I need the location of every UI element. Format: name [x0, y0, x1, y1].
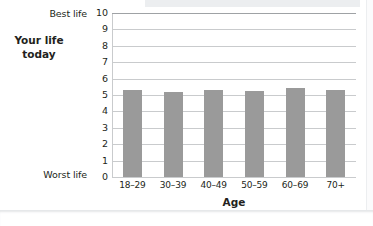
x-tick-label: 40–49 [191, 180, 237, 190]
bar [326, 90, 345, 177]
y-axis-min-caption: Worst life [43, 169, 87, 180]
y-axis-title: Your life today [2, 33, 76, 61]
bar [286, 88, 305, 177]
bar [204, 90, 223, 177]
page-edge-right [366, 0, 373, 213]
bar-series [112, 13, 356, 177]
y-tick-8: 8 [86, 40, 108, 51]
x-tick-label: 18–29 [109, 180, 155, 190]
gridline-0 [112, 177, 356, 178]
y-tick-0: 0 [86, 171, 108, 182]
x-tick-label: 50–59 [231, 180, 277, 190]
bar [245, 91, 264, 177]
page-edge-bottom [0, 210, 373, 226]
x-tick-label: 60–69 [272, 180, 318, 190]
y-axis-max-caption: Best life [49, 8, 87, 19]
x-tick-label: 70+ [313, 180, 359, 190]
y-tick-10: 10 [86, 7, 108, 18]
bar [123, 90, 142, 177]
x-axis-title: Age [112, 196, 356, 208]
bar [164, 92, 183, 177]
y-tick-9: 9 [86, 23, 108, 34]
y-axis-title-line1: Your life [2, 33, 76, 47]
page-scan-artifact-top [145, 0, 360, 7]
y-tick-2: 2 [86, 138, 108, 149]
chart-figure: Your life today Best life Worst life 012… [0, 0, 373, 226]
y-tick-7: 7 [86, 56, 108, 67]
y-tick-5: 5 [86, 89, 108, 100]
y-tick-3: 3 [86, 122, 108, 133]
y-axis-title-line2: today [2, 47, 76, 61]
y-tick-1: 1 [86, 155, 108, 166]
x-tick-label: 30–39 [150, 180, 196, 190]
y-tick-6: 6 [86, 73, 108, 84]
y-tick-4: 4 [86, 105, 108, 116]
